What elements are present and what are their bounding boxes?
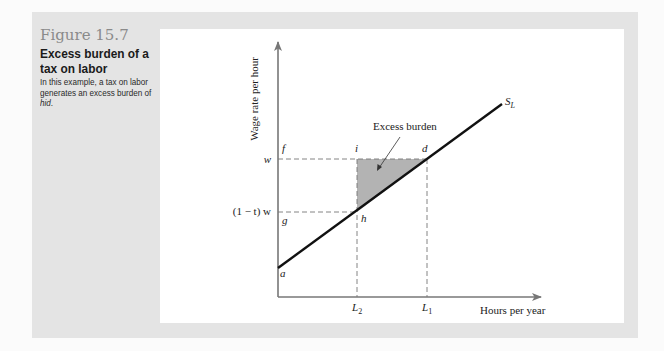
y-tick-1-t-w: (1 − t) w [233, 205, 271, 218]
annotation-label: Excess burden [373, 120, 437, 132]
point-f: f [282, 142, 287, 154]
chart-svg: Excess burden Wage rate per hour Hours p… [0, 0, 664, 351]
x-axis-label: Hours per year [480, 304, 546, 316]
y-tick-w: w [264, 153, 272, 165]
point-g: g [282, 214, 288, 226]
point-a: a [280, 267, 286, 279]
x-tick-l2: L2 [351, 301, 362, 316]
dashed-guides [278, 159, 427, 297]
x-tick-l1: L1 [421, 301, 432, 316]
y-axis-label: Wage rate per hour [248, 57, 260, 141]
point-h: h [361, 212, 367, 224]
point-i: i [355, 142, 358, 154]
series-label-sl: SL [505, 95, 516, 110]
point-d: d [422, 142, 428, 154]
